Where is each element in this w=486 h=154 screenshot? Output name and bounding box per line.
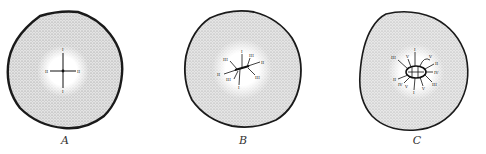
cross-section-figure: I I II II A <box>0 0 486 154</box>
numeral-label: III <box>391 55 396 60</box>
numeral-label: III <box>249 53 254 58</box>
numeral-label: III <box>223 57 228 62</box>
numeral-label: II <box>45 69 49 74</box>
cross-section-a-drawing: I I II II <box>0 0 162 154</box>
panel-b: I I II II III III III III B <box>162 0 324 154</box>
numeral-label: IV <box>398 82 403 87</box>
numeral-label: II <box>217 72 221 77</box>
numeral-label: V <box>428 54 432 59</box>
cross-section-c-drawing: I I II II III III IV IV V V V V <box>324 0 486 154</box>
panel-c: I I II II III III IV IV V V V V C <box>324 0 486 154</box>
numeral-label: V <box>404 84 408 89</box>
panel-a: I I II II A <box>0 0 162 154</box>
numeral-label: V <box>421 86 425 91</box>
numeral-label: III <box>432 82 437 87</box>
numeral-label: III <box>255 75 260 80</box>
numeral-label: II <box>261 60 265 65</box>
numeral-label: II <box>77 69 81 74</box>
numeral-label: IV <box>434 70 439 75</box>
numeral-label: III <box>226 77 231 82</box>
numeral-label: V <box>405 54 409 59</box>
numeral-label: II <box>393 77 397 82</box>
cross-section-b-drawing: I I II II III III III III <box>162 0 324 154</box>
numeral-label: II <box>435 61 439 66</box>
panel-label-a: A <box>55 134 75 147</box>
panel-label-b: B <box>233 134 253 147</box>
panel-label-c: C <box>407 134 427 147</box>
